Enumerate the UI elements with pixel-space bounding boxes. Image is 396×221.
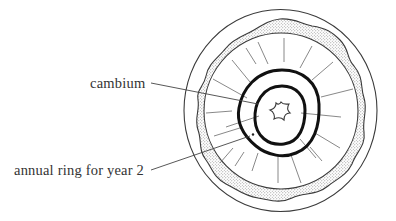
annual-ring-label: annual ring for year 2 [14,163,144,178]
cambium-label: cambium [90,76,145,91]
annual-ring-leader-dot [252,133,254,135]
stem-cross-section-diagram [0,0,396,221]
